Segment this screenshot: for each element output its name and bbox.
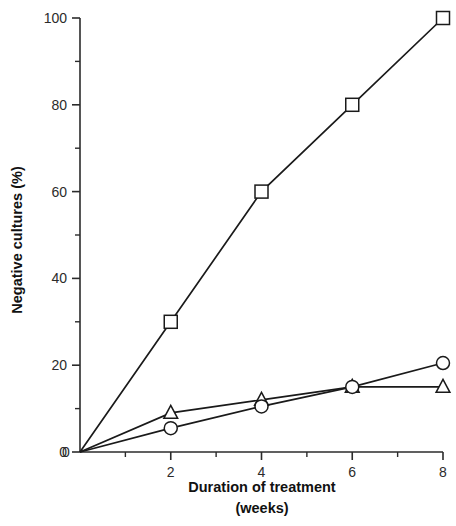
x-axis-tick-label: 8 (439, 464, 447, 480)
y-axis-tick-label: 100 (44, 10, 68, 26)
x-axis-tick-label: 4 (258, 464, 266, 480)
data-point-square (255, 185, 268, 198)
data-point-circle (437, 357, 450, 370)
data-point-square (346, 98, 359, 111)
y-axis-title: Negative cultures (%) (9, 166, 25, 314)
x-axis-tick-label: 6 (348, 464, 356, 480)
data-point-circle (164, 422, 177, 435)
chart-figure: 020406080100 02468 Negative cultures (%)… (0, 0, 456, 526)
y-axis-tick-label: 60 (51, 184, 67, 200)
x-axis-tick-label: 2 (167, 464, 175, 480)
data-point-circle (255, 400, 268, 413)
y-axis-tick-label: 80 (51, 97, 67, 113)
x-axis-title-line1: Duration of treatment (188, 479, 336, 495)
data-point-square (437, 12, 450, 25)
x-axis-title-line2: (weeks) (235, 500, 288, 516)
data-point-square (164, 315, 177, 328)
line-chart: 020406080100 02468 Negative cultures (%)… (0, 0, 456, 526)
data-point-circle (346, 380, 359, 393)
x-axis-tick-label: 0 (62, 444, 70, 460)
y-axis-tick-label: 40 (51, 270, 67, 286)
y-axis-tick-label: 20 (51, 357, 67, 373)
